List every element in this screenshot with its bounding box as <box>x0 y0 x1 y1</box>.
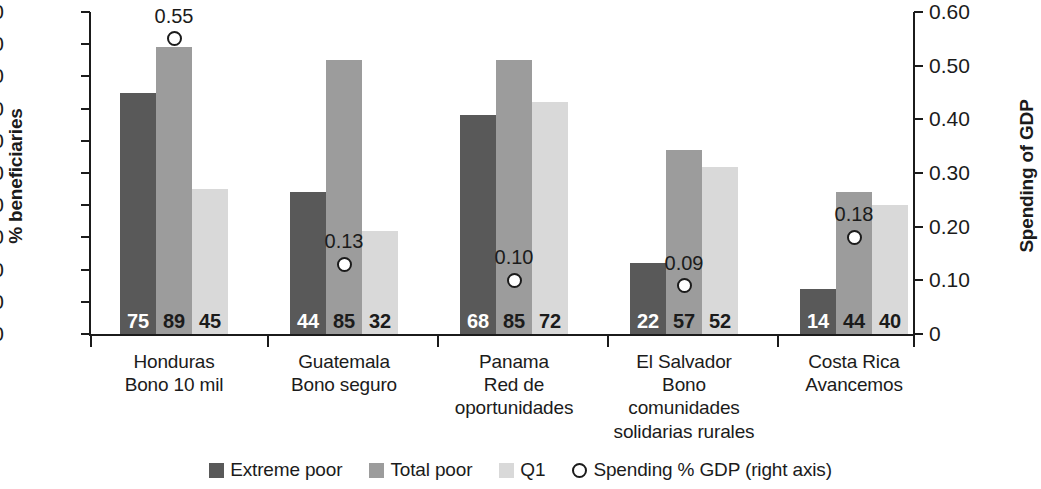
bar-value-label: 40 <box>872 311 908 331</box>
bar-value-label: 22 <box>630 311 666 331</box>
bar[interactable]: 72 <box>532 102 568 334</box>
spending-gdp-marker[interactable] <box>167 31 182 46</box>
y-axis-right-tick-label: 0.20 <box>929 216 1009 237</box>
y-axis-right-tick <box>914 11 923 13</box>
y-axis-left-tick-label: 100 <box>0 1 4 22</box>
y-axis-left-tick <box>81 172 90 174</box>
legend-swatch-icon <box>209 463 224 478</box>
y-axis-right-tick <box>914 65 923 67</box>
y-axis-left-tick <box>81 301 90 303</box>
bar[interactable]: 85 <box>496 60 532 334</box>
legend-item[interactable]: Spending % GDP (right axis) <box>572 459 832 481</box>
bar[interactable]: 45 <box>192 189 228 334</box>
y-axis-left-tick-label: 20 <box>0 259 4 280</box>
y-axis-left-tick <box>81 236 90 238</box>
legend-item[interactable]: Q1 <box>499 459 545 481</box>
bar-value-label: 85 <box>326 311 362 331</box>
y-axis-left-tick-label: 70 <box>0 98 4 119</box>
y-axis-left-tick <box>81 333 90 335</box>
bar[interactable]: 40 <box>872 205 908 334</box>
spending-gdp-marker[interactable] <box>337 257 352 272</box>
spending-gdp-marker[interactable] <box>847 230 862 245</box>
y-axis-left-tick-label: 30 <box>0 226 4 247</box>
y-axis-left-tick <box>81 140 90 142</box>
spending-gdp-value-label: 0.10 <box>488 247 540 267</box>
y-axis-right-tick <box>914 118 923 120</box>
bar-value-label: 68 <box>460 311 496 331</box>
y-axis-right-tick-label: 0.30 <box>929 162 1009 183</box>
bar-value-label: 57 <box>666 311 702 331</box>
y-axis-left-tick-label: 10 <box>0 291 4 312</box>
y-axis-right-title: Spending of GDP <box>1016 86 1038 266</box>
y-axis-right-tick-label: 0.10 <box>929 269 1009 290</box>
bar[interactable]: 22 <box>630 263 666 334</box>
spending-gdp-value-label: 0.13 <box>318 231 370 251</box>
bar[interactable]: 68 <box>460 115 496 334</box>
bar[interactable]: 14 <box>800 289 836 334</box>
legend-swatch-icon <box>369 463 384 478</box>
bar-value-label: 75 <box>120 311 156 331</box>
bar[interactable]: 52 <box>702 167 738 334</box>
y-axis-left-tick <box>81 43 90 45</box>
y-axis-right-tick <box>914 333 923 335</box>
x-axis-group-tick <box>90 336 92 347</box>
x-axis-group-tick <box>777 336 779 347</box>
y-axis-right-tick <box>914 226 923 228</box>
spending-gdp-value-label: 0.18 <box>828 204 880 224</box>
spending-gdp-marker[interactable] <box>507 273 522 288</box>
spending-gdp-value-label: 0.09 <box>658 253 710 273</box>
legend-item[interactable]: Total poor <box>369 459 472 481</box>
y-axis-left-tick-label: 60 <box>0 130 4 151</box>
bar-value-label: 89 <box>156 311 192 331</box>
category-label-line: Avancemos <box>749 373 959 396</box>
bar-value-label: 32 <box>362 311 398 331</box>
legend-swatch-icon <box>499 463 514 478</box>
y-axis-left-tick <box>81 204 90 206</box>
legend-circle-icon <box>572 463 587 478</box>
y-axis-left-tick <box>81 11 90 13</box>
y-axis-left-tick-label: 0 <box>0 323 4 344</box>
x-axis-category-label: Costa RicaAvancemos <box>749 350 959 396</box>
bar-value-label: 44 <box>836 311 872 331</box>
bar-value-label: 14 <box>800 311 836 331</box>
grouped-bar-chart: % beneficiaries Spending of GDP 10090807… <box>0 0 1041 489</box>
bar[interactable]: 75 <box>120 93 156 335</box>
bar[interactable]: 85 <box>326 60 362 334</box>
bar-value-label: 45 <box>192 311 228 331</box>
y-axis-left-title: % beneficiaries <box>5 86 27 266</box>
y-axis-right-tick-label: 0.40 <box>929 108 1009 129</box>
x-axis-group-tick <box>267 336 269 347</box>
y-axis-left-tick-label: 50 <box>0 162 4 183</box>
x-axis-group-tick <box>913 336 915 347</box>
y-axis-left-tick <box>81 108 90 110</box>
y-axis-right-tick <box>914 279 923 281</box>
y-axis-left-tick-label: 80 <box>0 65 4 86</box>
y-axis-left-tick <box>81 75 90 77</box>
y-axis-left-tick-label: 90 <box>0 33 4 54</box>
bar-value-label: 85 <box>496 311 532 331</box>
bar-value-label: 44 <box>290 311 326 331</box>
bar-value-label: 72 <box>532 311 568 331</box>
category-label-line: Costa Rica <box>749 350 959 373</box>
chart-legend: Extreme poorTotal poorQ1Spending % GDP (… <box>0 459 1041 481</box>
legend-label: Total poor <box>390 459 472 481</box>
y-axis-right-tick <box>914 172 923 174</box>
x-axis-group-tick <box>607 336 609 347</box>
spending-gdp-marker[interactable] <box>677 278 692 293</box>
legend-item[interactable]: Extreme poor <box>209 459 342 481</box>
bar-value-label: 52 <box>702 311 738 331</box>
legend-label: Spending % GDP (right axis) <box>593 459 832 481</box>
bar[interactable]: 57 <box>666 150 702 334</box>
category-label-line: comunidades <box>579 396 789 419</box>
x-axis-baseline <box>90 334 914 336</box>
spending-gdp-value-label: 0.55 <box>148 6 200 26</box>
y-axis-left-tick <box>81 269 90 271</box>
y-axis-left-tick-label: 40 <box>0 194 4 215</box>
y-axis-right-tick-label: 0.50 <box>929 55 1009 76</box>
y-axis-right-tick-label: 0.60 <box>929 1 1009 22</box>
legend-label: Q1 <box>520 459 545 481</box>
bar[interactable]: 44 <box>290 192 326 334</box>
legend-label: Extreme poor <box>230 459 342 481</box>
bar[interactable]: 89 <box>156 47 192 334</box>
y-axis-right-tick-label: 0 <box>929 323 1009 344</box>
